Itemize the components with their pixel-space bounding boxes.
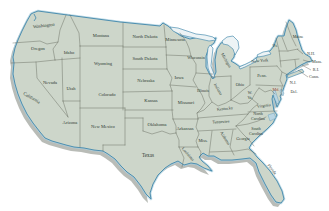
state-label-maryland: Md. bbox=[273, 87, 280, 92]
state-label-new-hampshire: N.H. bbox=[307, 51, 315, 56]
state-label-wisconsin: Wisconsin bbox=[187, 55, 205, 60]
state-label-rhode-island: R.I. bbox=[313, 67, 319, 72]
state-label-south-dakota: South Dakota bbox=[132, 56, 157, 61]
state-label-new-mexico: New Mexico bbox=[91, 124, 116, 129]
state-label-pennsylvania: Penn. bbox=[257, 73, 266, 78]
state-label-arkansas: Arkansas bbox=[176, 126, 193, 131]
state-label-connecticut: Conn. bbox=[309, 74, 319, 79]
state-label-maine: Maine bbox=[293, 34, 304, 39]
state-label-new-jersey: N.J. bbox=[290, 80, 297, 85]
state-label-arizona: Arizona bbox=[63, 120, 78, 125]
state-label-oklahoma: Oklahoma bbox=[147, 122, 166, 127]
state-label-missouri: Missouri bbox=[178, 100, 195, 105]
state-label-mississippi: Miss. bbox=[198, 138, 207, 143]
state-label-massachusetts: Mass. bbox=[312, 59, 322, 64]
state-label-west-virginia: W.Va. bbox=[247, 90, 252, 100]
state-label-oregon: Oregon bbox=[31, 46, 45, 51]
state-label-texas: Texas bbox=[142, 152, 154, 158]
state-label-nevada: Nevada bbox=[43, 80, 57, 85]
us-states-map: WashingtonOregonCaliforniaNevadaIdahoMon… bbox=[0, 0, 329, 211]
state-label-minnesota: Minnesota bbox=[165, 37, 184, 42]
state-label-colorado: Colorado bbox=[98, 92, 116, 97]
state-label-iowa: Iowa bbox=[174, 75, 183, 80]
state-label-delaware: Del. bbox=[290, 89, 297, 94]
state-label-georgia: Georgia bbox=[236, 136, 250, 141]
state-label-north-dakota: North Dakota bbox=[132, 34, 157, 39]
state-label-vermont: Vt. bbox=[273, 43, 278, 48]
map-canvas: WashingtonOregonCaliforniaNevadaIdahoMon… bbox=[0, 0, 329, 211]
state-label-wyoming: Wyoming bbox=[94, 61, 113, 66]
state-label-illinois: Illinois bbox=[197, 88, 209, 93]
state-label-ohio: Ohio bbox=[236, 82, 244, 87]
state-label-nebraska: Nebraska bbox=[137, 78, 154, 83]
state-label-idaho: Idaho bbox=[64, 50, 75, 55]
state-label-kansas: Kansas bbox=[144, 98, 157, 103]
state-label-utah: Utah bbox=[67, 86, 77, 91]
state-label-montana: Montana bbox=[93, 33, 109, 38]
